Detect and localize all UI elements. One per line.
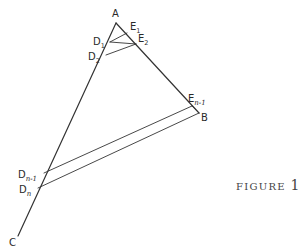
label-dn: Dn	[19, 184, 32, 198]
caption-word: FIGURE	[236, 181, 286, 192]
triangle-figure: A B C D1 D2 E1 E2 En-1 Dn-1 Dn	[0, 0, 308, 251]
label-dn1: Dn-1	[18, 169, 37, 183]
label-d1: D1	[93, 36, 105, 50]
label-d2: D2	[88, 51, 100, 65]
label-b: B	[201, 112, 208, 123]
side-ac	[18, 23, 116, 236]
label-a: A	[112, 8, 119, 19]
segment-d1-e1	[110, 33, 127, 42]
segment-d2-e2	[106, 44, 136, 55]
segment-dn-b	[38, 113, 199, 188]
label-e2: E2	[138, 33, 148, 47]
segment-dn1-en1	[44, 106, 192, 173]
segment-en1-b	[192, 106, 199, 113]
caption-number: 1	[290, 177, 299, 193]
label-en1: En-1	[188, 93, 206, 107]
side-ab	[116, 23, 199, 113]
figure-caption: FIGURE 1	[236, 177, 299, 193]
segment-d1-e2	[110, 42, 136, 44]
label-c: C	[9, 237, 16, 248]
